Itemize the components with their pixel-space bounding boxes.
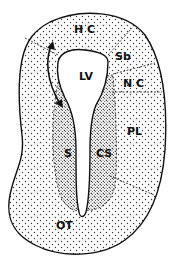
label-cs: CS — [96, 147, 112, 160]
brain-section-diagram: H C Sb N C LV PL S CS OT — [0, 0, 170, 259]
label-lv: LV — [79, 70, 93, 83]
label-ot: OT — [56, 219, 73, 232]
label-pl: PL — [127, 125, 142, 138]
label-hc: H C — [74, 23, 95, 36]
label-s: S — [64, 147, 72, 160]
label-nc: N C — [123, 77, 144, 90]
label-sb: Sb — [115, 50, 131, 63]
